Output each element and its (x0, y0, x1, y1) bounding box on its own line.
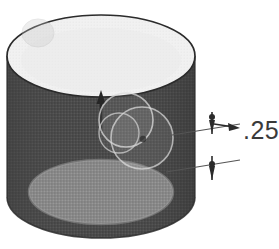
scan-dot-center (140, 136, 146, 142)
scan-blob-top-left (22, 19, 54, 47)
figure-canvas: .25 (0, 0, 279, 249)
dimension-lower-tick (209, 156, 215, 180)
dimension-value-label: .25 (243, 116, 279, 144)
cylinder-figure: .25 (0, 0, 279, 249)
dimension-upper-tick (209, 112, 215, 134)
scan-ring-center-c (99, 113, 139, 153)
